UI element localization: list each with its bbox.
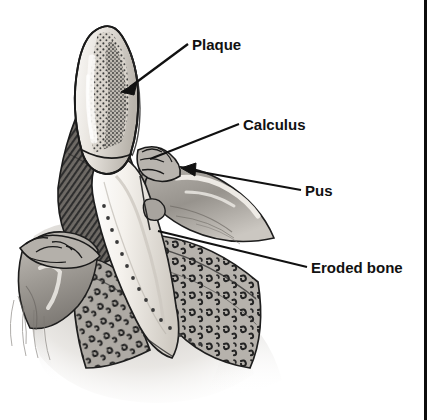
label-eroded-bone: Eroded bone [311,259,403,276]
label-pus: Pus [305,182,333,199]
dental-illustration-figure: Plaque Calculus Pus Eroded bone [0,0,436,420]
label-plaque: Plaque [192,36,241,53]
illustration-canvas: Plaque Calculus Pus Eroded bone [0,0,436,420]
label-calculus: Calculus [243,116,306,133]
right-vertical-rule [424,0,427,420]
